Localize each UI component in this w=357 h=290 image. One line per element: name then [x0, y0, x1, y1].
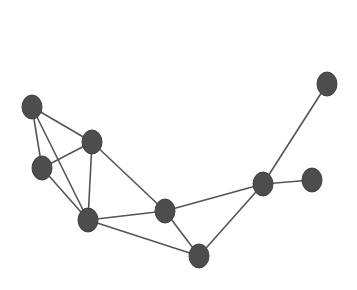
- edge-B-E: [92, 142, 165, 211]
- node-layer: [22, 72, 337, 268]
- node-H: [302, 168, 322, 192]
- edge-layer: [32, 84, 327, 256]
- node-G: [253, 172, 273, 196]
- edge-I-G: [199, 184, 263, 256]
- node-I: [189, 244, 209, 268]
- network-graph: [0, 0, 357, 290]
- node-D: [78, 208, 98, 232]
- edge-G-F: [263, 84, 327, 184]
- node-A: [22, 95, 42, 119]
- node-C: [32, 156, 52, 180]
- edge-D-E: [88, 211, 165, 220]
- node-F: [317, 72, 337, 96]
- edge-E-G: [165, 184, 263, 211]
- node-E: [155, 199, 175, 223]
- edge-D-I: [88, 220, 199, 256]
- node-B: [82, 130, 102, 154]
